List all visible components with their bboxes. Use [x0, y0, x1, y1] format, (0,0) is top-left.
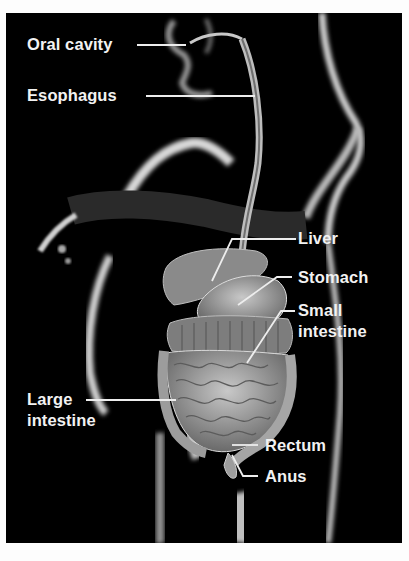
label-stomach: Stomach [298, 267, 368, 288]
label-esophagus: Esophagus [27, 85, 117, 106]
label-large-intestine-line1: Large [27, 389, 96, 410]
label-large-intestine: Large intestine [27, 389, 96, 431]
label-oral-cavity: Oral cavity [27, 34, 113, 55]
left-thigh [156, 433, 164, 543]
arm [71, 204, 306, 225]
label-anus: Anus [265, 466, 307, 487]
label-rectum: Rectum [265, 435, 326, 456]
right-thigh [238, 493, 243, 543]
head-silhouette [169, 19, 212, 95]
hand [40, 215, 76, 251]
diagram-panel: Oral cavity Esophagus Liver Stomach Smal… [6, 13, 402, 543]
hip-contour [328, 243, 341, 543]
label-liver: Liver [298, 228, 338, 249]
label-small-intestine-line1: Small [298, 300, 367, 321]
label-small-intestine: Small intestine [298, 300, 367, 342]
shoulder-highlight [126, 143, 231, 198]
label-large-intestine-line2: intestine [27, 410, 96, 431]
label-small-intestine-line2: intestine [298, 321, 367, 342]
